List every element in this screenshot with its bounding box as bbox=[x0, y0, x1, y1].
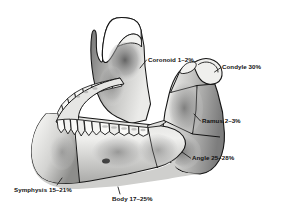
body-shadow-1 bbox=[92, 136, 144, 168]
mandible-fracture-distribution-figure: Coronoid 1–2% Condyle 30% Ramus 2–3% Ang… bbox=[0, 0, 281, 213]
near-ramus-shadow bbox=[169, 82, 203, 134]
chin-shadow bbox=[49, 134, 75, 170]
label-symphysis: Symphysis 15–21% bbox=[14, 187, 72, 193]
far-ramus-group bbox=[91, 18, 151, 124]
label-coronoid: Coronoid 1–2% bbox=[148, 57, 194, 63]
mandible-illustration bbox=[0, 0, 281, 213]
leader-body bbox=[118, 187, 120, 194]
tooth-near-molar-3 bbox=[119, 125, 129, 136]
label-angle: Angle 25–28% bbox=[192, 155, 234, 161]
label-body: Body 17–25% bbox=[112, 196, 152, 202]
label-condyle: Condyle 30% bbox=[222, 64, 261, 70]
tooth-near-molar-4 bbox=[129, 126, 139, 136]
tooth-near-molar-5 bbox=[139, 127, 149, 137]
label-ramus: Ramus 2–3% bbox=[202, 118, 241, 124]
body-shadow-2 bbox=[138, 134, 178, 166]
